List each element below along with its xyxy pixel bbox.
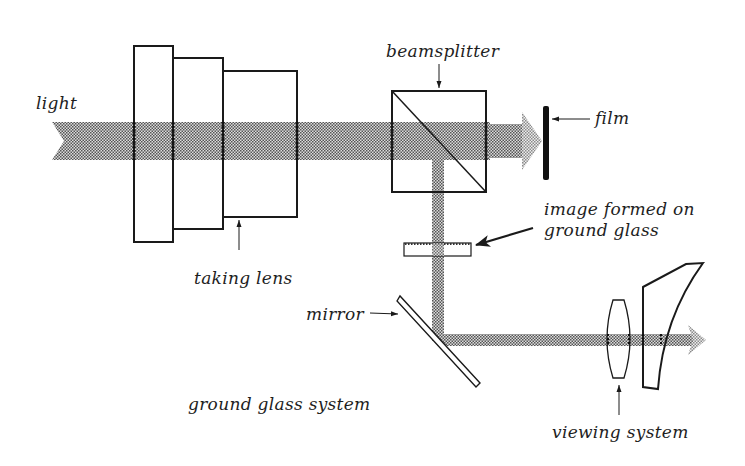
light-beam-vertical	[432, 141, 444, 341]
label-ground-glass-system: ground glass system	[188, 396, 371, 413]
film	[543, 106, 549, 180]
label-taking-lens: taking lens	[194, 270, 292, 287]
mirror-pointer-arrow	[370, 313, 398, 314]
label-light: light	[36, 95, 77, 112]
label-mirror: mirror	[306, 306, 364, 323]
label-image-formed-line2: ground glass	[544, 222, 659, 239]
label-beamsplitter: beamsplitter	[386, 43, 499, 60]
label-image-formed-line1: image formed on	[544, 201, 695, 218]
label-viewing-system: viewing system	[552, 424, 689, 441]
ground-glass-pointer-arrow	[476, 228, 533, 245]
ground-glass	[404, 243, 471, 256]
viewing-lens-eyepiece	[643, 263, 703, 389]
optical-diagram: light beamsplitter film image formed on …	[0, 0, 745, 466]
label-film: film	[595, 110, 630, 127]
